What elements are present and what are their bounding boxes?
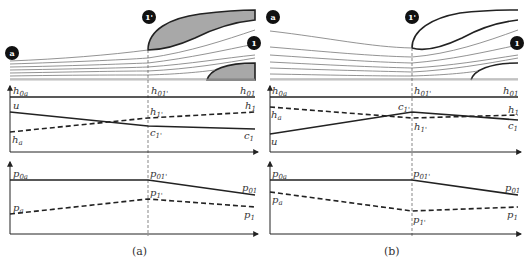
enthalpy-plot-b: h0a h01' h01 u c1' c1 ha h1' h1 bbox=[270, 85, 521, 152]
label-c1: c1 bbox=[244, 130, 254, 143]
label-p1p: p1' bbox=[150, 187, 163, 200]
label-p01p: p01' bbox=[413, 168, 430, 181]
label-p01p: p01' bbox=[150, 168, 167, 181]
svg-text:1: 1 bbox=[251, 38, 257, 48]
label-p0a: p0a bbox=[13, 168, 28, 181]
station-badge-exit-b: 1 bbox=[510, 36, 524, 50]
label-p0a: p0a bbox=[272, 168, 287, 181]
upper-blade-b bbox=[412, 10, 518, 49]
pressure-plot-b: p0a p01' p01 pa p1' p1 bbox=[270, 162, 521, 234]
label-c1p: c1' bbox=[150, 127, 162, 140]
total-pressure-line bbox=[10, 180, 255, 195]
label-u: u bbox=[13, 100, 19, 111]
label-u: u bbox=[271, 136, 277, 147]
label-h1: h1 bbox=[245, 100, 256, 113]
upper-blade-a bbox=[148, 10, 255, 50]
static-pressure-line bbox=[270, 192, 518, 211]
label-h1p: h1' bbox=[150, 106, 163, 119]
label-c1p: c1' bbox=[398, 101, 410, 114]
panel-b: a 1' 1 h0a h01' h01 u c1' c1 bbox=[266, 10, 524, 258]
caption-b: (b) bbox=[384, 245, 400, 258]
label-c1: c1 bbox=[508, 120, 518, 133]
enthalpy-plot-a: h0a h01' h01 u c1' c1 ha h1' h1 bbox=[10, 85, 258, 152]
svg-text:1': 1' bbox=[408, 12, 416, 22]
label-h01: h01 bbox=[240, 85, 255, 98]
flow-field-b: a 1' 1 bbox=[266, 10, 524, 80]
label-h0a: h0a bbox=[272, 85, 287, 98]
label-h01: h01 bbox=[503, 85, 518, 98]
svg-text:a: a bbox=[9, 48, 14, 58]
lower-blade-b bbox=[471, 63, 518, 80]
label-p1p: p1' bbox=[413, 214, 426, 227]
label-p1: p1 bbox=[244, 209, 255, 222]
caption-a: (a) bbox=[132, 245, 147, 258]
total-pressure-line bbox=[270, 180, 518, 195]
lower-blade-a bbox=[207, 63, 255, 80]
label-h0a: h0a bbox=[13, 85, 28, 98]
panel-a: a 1' 1 h0a h01' h01 u c1' c1 bbox=[5, 10, 261, 258]
label-ha: ha bbox=[271, 109, 282, 122]
label-h01p: h01' bbox=[151, 85, 168, 98]
streamlines-b bbox=[270, 30, 518, 79]
diagram-canvas: a 1' 1 h0a h01' h01 u c1' c1 bbox=[0, 0, 531, 263]
label-h1p: h1' bbox=[414, 121, 427, 134]
label-ha: ha bbox=[12, 134, 23, 147]
station-badge-b: a bbox=[266, 10, 280, 24]
label-p1: p1 bbox=[507, 209, 518, 222]
static-enthalpy-line bbox=[270, 107, 518, 118]
flow-field-a: a 1' 1 bbox=[5, 10, 261, 80]
label-h01p: h01' bbox=[414, 85, 431, 98]
station-badge-a: a bbox=[5, 46, 19, 60]
static-pressure-line bbox=[10, 199, 255, 214]
svg-text:1: 1 bbox=[514, 38, 520, 48]
svg-text:a: a bbox=[270, 12, 275, 22]
pressure-plot-a: p0a p01' p01 pa p1' p1 bbox=[10, 162, 258, 234]
station-badge-throat-b: 1' bbox=[405, 10, 419, 24]
svg-text:1': 1' bbox=[145, 12, 153, 22]
station-badge-throat-a: 1' bbox=[142, 10, 156, 24]
station-badge-exit-a: 1 bbox=[247, 36, 261, 50]
label-pa: pa bbox=[272, 194, 283, 207]
